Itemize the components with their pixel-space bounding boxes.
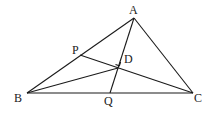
triangle-abc [27, 18, 193, 93]
label-b: B [14, 91, 22, 105]
label-q: Q [104, 94, 113, 108]
label-p: P [72, 43, 79, 57]
label-a: A [129, 3, 138, 17]
segment-bd [27, 68, 118, 93]
label-c: C [194, 91, 202, 105]
geometry-diagram: A B C P D Q [0, 0, 218, 113]
label-d: D [124, 52, 133, 66]
segment-ac [134, 18, 193, 93]
